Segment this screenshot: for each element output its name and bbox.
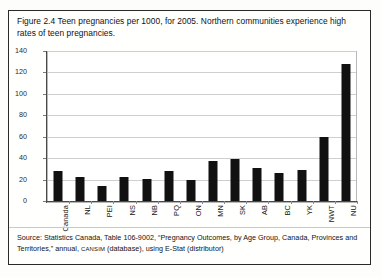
bar-slot [202, 51, 224, 201]
x-tick-label: NU [349, 205, 358, 216]
source-suffix: (database), using E-Stat (distributor) [105, 244, 224, 253]
bar [253, 168, 262, 201]
bar-slot [91, 51, 113, 201]
y-tick-label: 100 [0, 90, 27, 97]
x-tick-mark [224, 201, 225, 204]
x-tick-mark [180, 201, 181, 204]
bar [120, 177, 129, 201]
bar [142, 179, 151, 202]
x-tick-label: NS [128, 205, 137, 215]
x-tick-mark [313, 201, 314, 204]
figure-container: Figure 2.4 Teen pregnancies per 1000, fo… [8, 10, 371, 265]
bar [231, 159, 240, 201]
bar-slot [69, 51, 91, 201]
x-tick-mark [357, 201, 358, 204]
bar [319, 137, 328, 201]
divider [9, 227, 370, 228]
bar-slot [268, 51, 290, 201]
bar-slot [291, 51, 313, 201]
bar [98, 186, 107, 201]
bar-slot [47, 51, 69, 201]
x-tick-label: MN [216, 205, 225, 217]
x-tick-label: NL [83, 205, 92, 215]
bar [341, 64, 350, 201]
bar [209, 161, 218, 201]
x-tick-mark [268, 201, 269, 204]
bar-series [47, 51, 357, 201]
y-tick-label: 140 [0, 47, 27, 54]
x-tick-mark [335, 201, 336, 204]
x-tick-mark [91, 201, 92, 204]
bar-slot [113, 51, 135, 201]
bar [275, 173, 284, 201]
x-tick-label: NWT [327, 205, 336, 222]
bar [164, 171, 173, 201]
x-tick-label: BC [283, 205, 292, 215]
x-tick-mark [246, 201, 247, 204]
x-tick-mark [113, 201, 114, 204]
y-tick-label: 40 [0, 154, 27, 161]
source-smallcaps: CANSIM [81, 246, 105, 252]
bar-slot [246, 51, 268, 201]
bar-slot [313, 51, 335, 201]
bar [76, 177, 85, 201]
x-tick-label: PQ [172, 205, 181, 216]
y-tick-label: 0 [0, 197, 27, 204]
bar [297, 170, 306, 201]
x-tick-mark [158, 201, 159, 204]
y-tick-label: 80 [0, 111, 27, 118]
x-tick-label: SK [238, 205, 247, 215]
y-tick-label: 120 [0, 68, 27, 75]
x-tick-label: PEI [105, 205, 114, 217]
bar [54, 171, 63, 201]
x-tick-label: NB [150, 205, 159, 215]
x-tick-mark [291, 201, 292, 204]
bar-slot [158, 51, 180, 201]
bar-slot [136, 51, 158, 201]
bar [186, 180, 195, 201]
x-tick-label: AB [260, 205, 269, 215]
y-tick-label: 60 [0, 133, 27, 140]
figure-caption: Figure 2.4 Teen pregnancies per 1000, fo… [17, 16, 361, 40]
bar-slot [224, 51, 246, 201]
bar-slot [180, 51, 202, 201]
x-tick-mark [202, 201, 203, 204]
bar-slot [335, 51, 357, 201]
figure-source: Source: Statistics Canada, Table 106-900… [17, 233, 363, 254]
x-tick-label: YK [305, 205, 314, 215]
x-tick-mark [136, 201, 137, 204]
x-tick-label: ON [194, 205, 203, 216]
y-tick-label: 20 [0, 176, 27, 183]
